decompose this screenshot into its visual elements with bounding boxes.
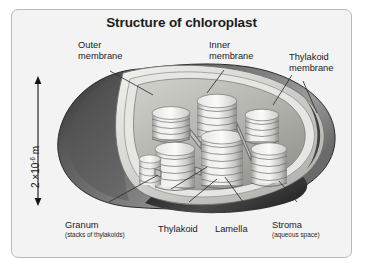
chloroplast-figure: Structure of chloroplast xyxy=(0,0,365,271)
label-thylakoid-membrane: Thylakoid membrane xyxy=(289,52,333,73)
label-granum: Granum (stacks of thylakoids) xyxy=(65,220,125,238)
label-stroma: Stroma (aqueous space) xyxy=(272,220,320,238)
label-lamella: Lamella xyxy=(215,224,248,235)
scale-bar-label: 2 ×10-6 m xyxy=(30,146,41,188)
label-outer-membrane: Outer membrane xyxy=(78,40,122,61)
label-inner-membrane: Inner membrane xyxy=(209,40,253,61)
label-thylakoid: Thylakoid xyxy=(158,224,198,235)
